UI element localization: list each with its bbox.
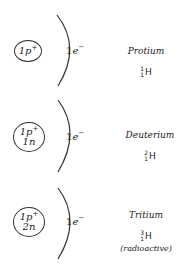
isotope-name: Tritium xyxy=(106,210,185,220)
isotope-notation: 31 H xyxy=(140,230,152,242)
isotope-notation: 21 H xyxy=(144,150,156,162)
nucleus-deuterium: 1p+ 1n xyxy=(13,122,45,152)
nucleus-protium: 1p+ xyxy=(14,40,42,62)
label-deuterium: Deuterium 21 H xyxy=(110,130,185,162)
isotope-notation: 11 H xyxy=(140,66,152,78)
isotope-name: Protium xyxy=(106,46,185,56)
electron-tritium: 1e− xyxy=(66,216,84,227)
electron-deuterium: 1e− xyxy=(66,131,84,142)
electron-protium: 1e− xyxy=(66,45,84,56)
radioactive-note: (radioactive) xyxy=(106,244,185,253)
label-protium: Protium 11 H xyxy=(106,46,185,78)
isotope-name: Deuterium xyxy=(110,130,185,140)
label-tritium: Tritium 31 H (radioactive) xyxy=(106,210,185,253)
nucleus-tritium: 1p+ 2n xyxy=(13,207,45,237)
